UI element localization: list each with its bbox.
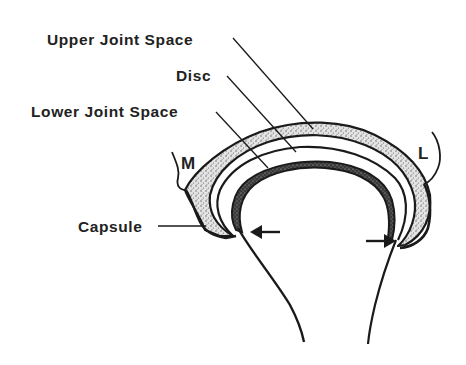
capsule-label: Capsule — [78, 219, 143, 235]
left-arrow-icon — [250, 225, 280, 239]
upper-joint-space-label: Upper Joint Space — [47, 32, 193, 48]
joint-diagram-drawing — [0, 0, 466, 365]
lateral-label: L — [418, 145, 429, 162]
joint-diagram: Upper Joint Space Disc Lower Joint Space… — [0, 0, 466, 365]
lower-joint-space-label: Lower Joint Space — [31, 104, 178, 120]
lower-joint-space-band — [232, 162, 395, 240]
upper-joint-space-leader — [233, 38, 313, 129]
medial-label: M — [181, 155, 196, 172]
condyle-neck-left — [238, 228, 304, 342]
condyle-neck-right — [368, 240, 396, 344]
disc-label: Disc — [176, 68, 211, 84]
